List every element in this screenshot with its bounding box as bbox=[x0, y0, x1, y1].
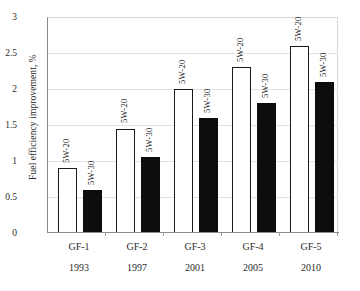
x-tick-4 bbox=[279, 232, 280, 236]
bar-label-5w30-gf-3: 5W-30 bbox=[202, 89, 212, 113]
bar-label-5w20-gf-5: 5W-20 bbox=[293, 17, 303, 41]
bar-label-5w20-gf-4: 5W-20 bbox=[235, 38, 245, 62]
bar-5w20-gf-5 bbox=[290, 46, 309, 233]
bar-5w30-gf-1 bbox=[83, 190, 102, 233]
y-tick-label-4: 2 bbox=[0, 85, 17, 95]
y-tick-label-1: 0.5 bbox=[0, 193, 17, 203]
bar-5w20-gf-4 bbox=[232, 67, 251, 233]
bar-label-5w20-gf-1: 5W-20 bbox=[61, 139, 71, 163]
bar-group-gf-3: 5W-20 5W-30 bbox=[174, 17, 218, 233]
bar-5w30-gf-4 bbox=[257, 103, 276, 233]
bar-label-5w30-gf-4: 5W-30 bbox=[260, 74, 270, 98]
bar-chart: Fuel efficiency improvement, % 0 0.5 1 1… bbox=[0, 0, 360, 291]
bar-group-gf-4: 5W-20 5W-30 bbox=[232, 17, 276, 233]
x-tick-1 bbox=[105, 232, 106, 236]
bar-group-gf-2: 5W-20 5W-30 bbox=[116, 17, 160, 233]
bar-label-5w20-gf-3: 5W-20 bbox=[177, 60, 187, 84]
bar-label-5w30-gf-2: 5W-30 bbox=[144, 128, 154, 152]
bar-5w20-gf-3 bbox=[174, 89, 193, 233]
y-tick-label-2: 1 bbox=[0, 157, 17, 167]
y-tick-label-0: 0 bbox=[0, 229, 17, 239]
x-category-label-gf-5: GF-5 bbox=[276, 241, 346, 252]
bar-label-5w30-gf-5: 5W-30 bbox=[318, 53, 328, 77]
y-tick-label-6: 3 bbox=[0, 13, 17, 23]
x-tick-3 bbox=[221, 232, 222, 236]
x-tick-5 bbox=[337, 232, 338, 236]
bar-5w30-gf-2 bbox=[141, 157, 160, 233]
bar-5w30-gf-5 bbox=[315, 82, 334, 233]
y-tick-label-3: 1.5 bbox=[0, 121, 17, 131]
bar-label-5w30-gf-1: 5W-30 bbox=[86, 161, 96, 185]
bar-label-5w20-gf-2: 5W-20 bbox=[119, 99, 129, 123]
bar-group-gf-5: 5W-20 5W-30 bbox=[290, 17, 334, 233]
x-tick-2 bbox=[163, 232, 164, 236]
plot-area: 5W-20 5W-30 5W-20 5W-30 5W-20 5W-30 5W-2… bbox=[47, 17, 338, 233]
bar-5w20-gf-1 bbox=[58, 168, 77, 233]
x-axis-line bbox=[47, 232, 339, 233]
y-tick-label-5: 2.5 bbox=[0, 49, 17, 59]
x-year-label-2010: 2010 bbox=[276, 262, 346, 273]
y-axis-title: Fuel efficiency improvement, % bbox=[28, 22, 38, 212]
bar-5w20-gf-2 bbox=[116, 129, 135, 233]
bar-5w30-gf-3 bbox=[199, 118, 218, 233]
bar-group-gf-1: 5W-20 5W-30 bbox=[58, 17, 102, 233]
